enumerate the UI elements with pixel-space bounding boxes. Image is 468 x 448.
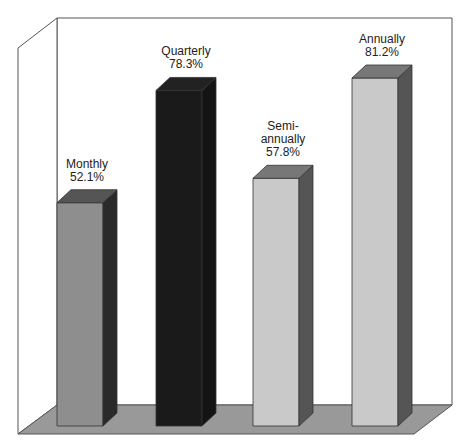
bar-label-semi-annually: Semi-annually57.8% bbox=[238, 120, 328, 159]
bar-label-monthly: Monthly52.1% bbox=[42, 158, 132, 184]
bar-label-quarterly: Quarterly78.3% bbox=[141, 45, 231, 71]
bar-side-1 bbox=[202, 77, 216, 426]
value-label: 52.1% bbox=[42, 171, 132, 184]
value-label: 78.3% bbox=[141, 58, 231, 71]
bar-side-0 bbox=[103, 190, 117, 426]
bar-front-1 bbox=[156, 90, 202, 426]
value-label: 57.8% bbox=[238, 146, 328, 159]
bar-side-3 bbox=[398, 65, 412, 426]
bar-chart-3d bbox=[0, 0, 468, 448]
bar-front-0 bbox=[57, 203, 103, 426]
bar-front-2 bbox=[253, 178, 299, 426]
left-wall bbox=[18, 18, 57, 434]
value-label: 81.2% bbox=[337, 46, 427, 59]
category-label: Monthly bbox=[42, 158, 132, 171]
bar-front-3 bbox=[352, 78, 398, 426]
bar-side-2 bbox=[299, 165, 313, 426]
bar-label-annually: Annually81.2% bbox=[337, 33, 427, 59]
